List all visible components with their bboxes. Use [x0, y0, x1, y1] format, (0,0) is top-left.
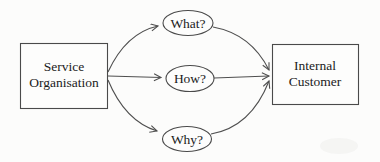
question-node-why: Why?	[163, 127, 212, 152]
question-node-how: How?	[166, 66, 214, 92]
what-label: What?	[170, 16, 205, 31]
edge-source-to-why-arrow	[108, 80, 157, 131]
edge-how-to-target-arrow	[214, 76, 269, 78]
scan-smudge	[320, 138, 358, 154]
edge-source-to-how-arrow	[108, 76, 161, 78]
internal-customer-label-line2: Customer	[289, 74, 342, 89]
service-organisation-label-line1: Service	[44, 59, 84, 74]
edge-source-to-what-arrow	[108, 26, 158, 72]
question-node-what: What?	[163, 11, 213, 36]
edge-why-to-target-arrow	[211, 81, 269, 134]
why-label: Why?	[171, 132, 203, 147]
service-organisation-node: Service Organisation	[21, 44, 108, 109]
internal-customer-label-line1: Internal	[294, 58, 336, 73]
edge-what-to-target-arrow	[213, 27, 269, 70]
diagram-canvas: Service Organisation Internal Customer W…	[0, 0, 380, 162]
internal-customer-node: Internal Customer	[273, 45, 359, 105]
service-organisation-label-line2: Organisation	[29, 75, 99, 90]
service-questions-diagram: Service Organisation Internal Customer W…	[0, 0, 380, 162]
how-label: How?	[174, 71, 206, 86]
